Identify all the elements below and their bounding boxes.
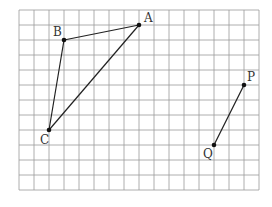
label-a: A — [143, 11, 153, 25]
points: A B C P Q — [40, 11, 255, 161]
label-p: P — [247, 70, 255, 84]
label-c: C — [40, 133, 49, 147]
label-q: Q — [203, 147, 213, 161]
grid-figure: A B C P Q — [0, 0, 272, 207]
label-b: B — [53, 25, 62, 39]
point-c: C — [40, 128, 51, 147]
